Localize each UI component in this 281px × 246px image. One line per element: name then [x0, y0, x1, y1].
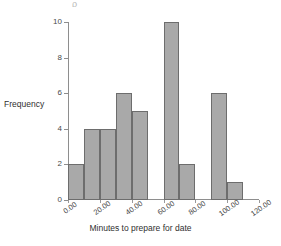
histogram-bar	[132, 111, 148, 200]
y-tick-label: 4	[58, 125, 62, 133]
histogram-bar	[211, 93, 227, 200]
x-tick-label: 20.00	[92, 200, 112, 217]
top-edge-artifact: ρ	[72, 0, 98, 7]
x-tick-label: 120.00	[250, 198, 273, 218]
histogram-figure: ρ Frequency 0246810 0.0020.0040.0060.008…	[0, 0, 281, 246]
x-tick-label: 60.00	[156, 200, 176, 217]
histogram-bar	[116, 93, 132, 200]
y-tick-mark	[64, 129, 68, 130]
y-tick-label: 6	[58, 89, 62, 97]
histogram-bar	[164, 22, 180, 200]
y-tick-mark	[64, 58, 68, 59]
y-tick-label: 2	[58, 160, 62, 168]
y-tick-mark	[64, 164, 68, 165]
y-tick-label: 8	[58, 54, 62, 62]
histogram-bar	[100, 129, 116, 200]
x-axis-label: Minutes to prepare for date	[0, 224, 281, 233]
plot-area	[68, 22, 259, 200]
histogram-bar	[68, 164, 84, 200]
y-tick-mark	[64, 22, 68, 23]
histogram-bar	[84, 129, 100, 200]
histogram-bar	[179, 164, 195, 200]
x-tick-label: 100.00	[218, 198, 241, 218]
y-tick-label: 10	[53, 18, 62, 26]
y-axis-label: Frequency	[4, 100, 44, 109]
x-tick-label: 0.00	[62, 201, 79, 216]
x-tick-label: 80.00	[188, 200, 208, 217]
y-tick-label: 0	[58, 196, 62, 204]
x-tick-label: 40.00	[124, 200, 144, 217]
y-tick-mark	[64, 93, 68, 94]
